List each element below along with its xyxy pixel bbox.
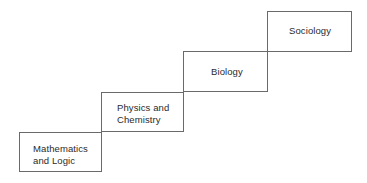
step-label: Biology <box>211 66 243 78</box>
step-sociology: Sociology <box>267 11 352 52</box>
step-label: Sociology <box>289 25 331 37</box>
step-physics-and-chemistry: Physics and Chemistry <box>101 92 184 132</box>
step-biology: Biology <box>183 51 268 92</box>
step-label: Mathematics and Logic <box>33 143 88 167</box>
step-label: Physics and Chemistry <box>117 102 169 126</box>
step-mathematics-and-logic: Mathematics and Logic <box>19 132 102 172</box>
